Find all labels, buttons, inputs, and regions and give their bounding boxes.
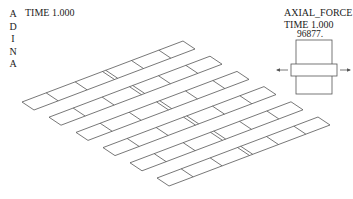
element-divider [158,76,170,84]
element-divider [214,131,226,139]
element-divider [241,146,253,154]
element-divider [181,169,193,177]
element-divider [213,81,225,89]
element-divider [240,96,252,104]
element-divider [187,116,199,124]
element-divider [131,61,143,69]
axial-force-legend-icon [276,40,351,94]
element-divider [106,70,118,78]
element-divider [46,93,58,101]
element-divider [294,126,306,134]
element-divider [239,121,251,129]
element-divider [102,97,114,105]
element-divider [210,158,222,166]
element-divider [156,127,168,135]
element-divider [154,154,166,162]
element-divider [103,72,115,80]
bar-section-band-icon [291,64,337,76]
element-divider [75,82,87,90]
element-divider [184,117,196,125]
left-arrowhead-icon [276,68,280,71]
model-canvas [0,0,353,199]
element-divider [183,143,195,151]
truss-strips [22,41,330,186]
element-divider [212,106,224,114]
element-divider [266,137,278,145]
element-divider [129,112,141,120]
element-divider [185,91,197,99]
element-divider [238,148,250,156]
element-divider [127,138,139,146]
element-divider [267,111,279,119]
element-divider [159,50,171,58]
element-divider [73,108,85,116]
element-divider [130,87,142,95]
right-arrowhead-icon [347,68,351,71]
element-divider [211,132,223,140]
element-divider [186,65,198,73]
element-divider [160,101,172,109]
element-divider [100,123,112,131]
element-divider [157,102,169,110]
element-divider [133,85,145,93]
